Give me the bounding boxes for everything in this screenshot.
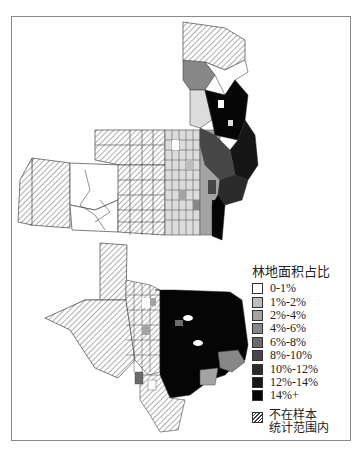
legend-swatch bbox=[252, 337, 263, 348]
legend-label: 12%-14% bbox=[270, 376, 318, 389]
hatch-pattern-icon bbox=[252, 412, 263, 423]
texas-region bbox=[45, 243, 248, 432]
colorado-region bbox=[18, 158, 120, 232]
legend-swatch bbox=[252, 364, 263, 375]
legend-title: 林地面积占比 bbox=[252, 264, 352, 280]
legend-item: 1%-2% bbox=[252, 295, 352, 308]
legend-item: 2%-4% bbox=[252, 309, 352, 322]
legend-label: 0-1% bbox=[270, 282, 296, 295]
not-in-sample-line1: 不在样本 bbox=[269, 408, 317, 422]
legend-item: 10%-12% bbox=[252, 362, 352, 375]
legend-swatch bbox=[252, 297, 263, 308]
legend-item: 12%-14% bbox=[252, 376, 352, 389]
legend-label: 1%-2% bbox=[270, 296, 306, 309]
legend-item: 4%-6% bbox=[252, 322, 352, 335]
legend-label: 8%-10% bbox=[270, 349, 312, 362]
legend-not-in-sample: 不在样本 统计范围内 bbox=[252, 409, 352, 435]
legend-label: 2%-4% bbox=[270, 309, 306, 322]
legend-item: 14%+ bbox=[252, 389, 352, 402]
legend-label: 4%-6% bbox=[270, 322, 306, 335]
legend: 林地面积占比 0-1% 1%-2% 2%-4% 4%-6% 6%-8% 8%-1… bbox=[252, 264, 352, 435]
legend-item: 8%-10% bbox=[252, 349, 352, 362]
legend-label: 10%-12% bbox=[270, 363, 318, 376]
legend-swatch bbox=[252, 283, 263, 294]
legend-swatch bbox=[252, 310, 263, 321]
legend-swatch bbox=[252, 350, 263, 361]
legend-item: 6%-8% bbox=[252, 336, 352, 349]
legend-swatch bbox=[252, 323, 263, 334]
legend-label: 14%+ bbox=[270, 389, 299, 402]
not-in-sample-label: 不在样本 统计范围内 bbox=[269, 409, 329, 435]
legend-swatch bbox=[252, 390, 263, 401]
legend-label: 6%-8% bbox=[270, 336, 306, 349]
legend-swatch bbox=[252, 377, 263, 388]
not-in-sample-line2: 统计范围内 bbox=[269, 421, 329, 435]
legend-item: 0-1% bbox=[252, 282, 352, 295]
